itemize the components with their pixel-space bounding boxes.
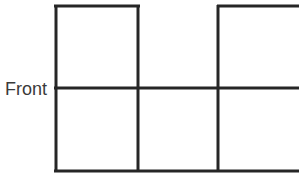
front-label: Front xyxy=(5,77,51,101)
